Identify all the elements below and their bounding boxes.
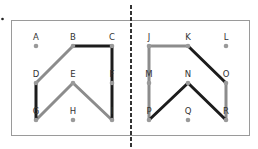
point-G (34, 118, 39, 123)
point-R (224, 118, 229, 123)
point-E (71, 81, 76, 86)
point-label-C: C (109, 32, 115, 42)
dark-segment-PN (149, 83, 188, 120)
point-M (147, 81, 152, 86)
point-A (34, 44, 39, 49)
point-I (110, 118, 115, 123)
point-H (71, 118, 76, 123)
point-N (186, 81, 191, 86)
point-label-A: A (33, 32, 39, 42)
point-F (110, 81, 115, 86)
point-label-M: M (145, 69, 152, 79)
point-label-F: F (110, 69, 115, 79)
point-label-L: L (224, 32, 229, 42)
dark-segment-KO (188, 46, 226, 83)
point-Q (186, 118, 191, 123)
point-label-J: J (147, 32, 151, 42)
left-panel: ABCDEFGHI (33, 32, 115, 122)
point-label-R: R (223, 106, 229, 116)
point-P (147, 118, 152, 123)
bullet-marker (1, 18, 4, 21)
point-label-E: E (70, 69, 75, 79)
point-C (110, 44, 115, 49)
point-K (186, 44, 191, 49)
point-label-P: P (146, 106, 151, 116)
right-panel: JKLMNOPQR (145, 32, 229, 122)
point-label-I: I (111, 106, 114, 116)
dark-segment-NR (188, 83, 226, 120)
point-D (34, 81, 39, 86)
light-segment-EI (73, 83, 112, 120)
point-L (224, 44, 229, 49)
point-B (71, 44, 76, 49)
point-label-Q: Q (185, 106, 192, 116)
light-segment-DB (36, 46, 73, 83)
point-label-O: O (223, 69, 230, 79)
point-label-B: B (70, 32, 76, 42)
point-label-G: G (33, 106, 40, 116)
point-label-D: D (33, 69, 40, 79)
point-label-H: H (70, 106, 76, 116)
point-J (147, 44, 152, 49)
point-label-K: K (185, 32, 191, 42)
light-segment-GE (36, 83, 73, 120)
grid-path-diagram: ABCDEFGHI JKLMNOPQR (0, 0, 258, 149)
point-label-N: N (185, 69, 191, 79)
point-O (224, 81, 229, 86)
